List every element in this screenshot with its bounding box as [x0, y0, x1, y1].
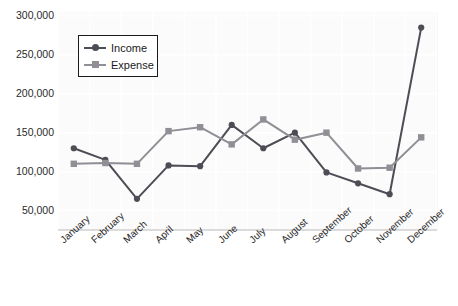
legend-entry-expense: Expense	[84, 57, 154, 72]
x-tick-label: May	[184, 224, 205, 245]
x-axis-tick-labels: JanuaryFebruaryMarchAprilMayJuneJulyAugu…	[0, 0, 458, 306]
legend-entry-income: Income	[84, 40, 147, 55]
x-tick-label: January	[58, 213, 92, 245]
x-tick-label: March	[121, 218, 149, 245]
legend-label-income: Income	[111, 42, 147, 54]
chart-legend: Income Expense	[78, 35, 158, 77]
x-tick-label: April	[153, 224, 175, 246]
line-chart: 50,000100,000150,000200,000250,000300,00…	[0, 0, 458, 306]
x-tick-label: February	[89, 210, 126, 245]
legend-label-expense: Expense	[111, 59, 154, 71]
legend-swatch-expense	[84, 59, 106, 70]
x-tick-label: July	[247, 225, 268, 245]
x-tick-label: August	[279, 216, 310, 245]
legend-swatch-income	[84, 42, 106, 53]
x-tick-label: June	[216, 222, 239, 245]
